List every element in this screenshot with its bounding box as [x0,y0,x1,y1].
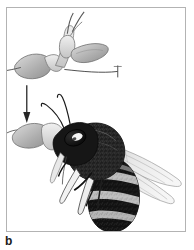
downward-arrow-group [23,85,30,123]
illustration-frame [6,7,186,232]
pollinarium-stalk-lateral [64,69,117,72]
antenna-right [57,94,70,125]
foreleg [60,169,80,204]
figure-panel: b [0,0,194,250]
arrow-head-icon [23,112,30,123]
pollinarium-detached-group [7,12,122,79]
bee-group [7,94,181,231]
pollinium-mass-right [71,44,108,63]
scientific-illustration [7,8,185,231]
pollinium-filament-2 [72,12,84,32]
panel-label: b [5,235,12,248]
